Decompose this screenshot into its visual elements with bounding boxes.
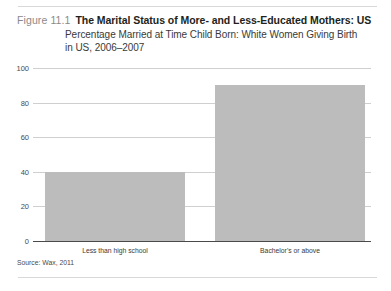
gridline-100: 100 [33, 68, 371, 69]
figure-title-line: Figure 11.1The Marital Status of More- a… [17, 12, 379, 27]
bar-less-than-high-school [45, 172, 185, 241]
y-axis-tick-label-0: 0 [25, 237, 29, 246]
y-axis-tick-label-60: 60 [21, 133, 29, 142]
bar-bachelors-or-above [215, 85, 365, 241]
figure-header: Figure 11.1The Marital Status of More- a… [17, 12, 379, 54]
x-axis-baseline: 0 [33, 241, 371, 242]
figure-number: Figure 11.1 [17, 14, 70, 26]
figure-container: Figure 11.1The Marital Status of More- a… [0, 0, 391, 291]
x-axis-label-1: Bachelor's or above [215, 247, 365, 254]
x-axis-label-0: Less than high school [45, 247, 185, 254]
bottom-divider-rule [18, 277, 377, 278]
source-note: Source: Wax, 2011 [17, 259, 74, 266]
y-axis-tick-label-20: 20 [21, 202, 29, 211]
y-axis-tick-label-80: 80 [21, 98, 29, 107]
chart-plot-area: 100806040200 [33, 68, 371, 241]
y-axis-tick-label-100: 100 [16, 64, 29, 73]
y-axis-tick-label-40: 40 [21, 167, 29, 176]
page-title: The Marital Status of More- and Less-Edu… [75, 14, 371, 26]
figure-subtitle: Percentage Married at Time Child Born: W… [65, 29, 365, 54]
top-divider-rule [18, 6, 377, 7]
